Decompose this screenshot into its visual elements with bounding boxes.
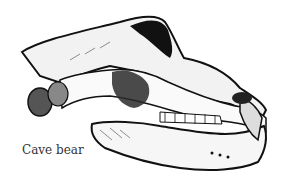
skull-drawing <box>0 0 286 194</box>
illustration: Cave bear <box>0 0 286 194</box>
caption: Cave bear <box>22 143 84 157</box>
